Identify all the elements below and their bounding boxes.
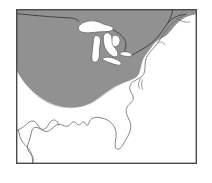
map-svg xyxy=(0,0,212,183)
map-figure xyxy=(0,0,212,183)
